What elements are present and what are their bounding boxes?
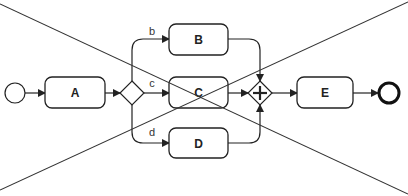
task-c[interactable]: C	[169, 77, 228, 108]
parallel-gateway[interactable]	[248, 81, 272, 105]
task-e[interactable]: E	[297, 77, 353, 108]
task-e-label: E	[321, 86, 329, 100]
end-event[interactable]	[379, 83, 399, 103]
start-event[interactable]	[5, 83, 25, 103]
task-d-label: D	[194, 137, 203, 151]
task-b[interactable]: B	[169, 24, 228, 55]
flow-label-b: b	[149, 25, 155, 37]
exclusive-gateway[interactable]	[120, 81, 144, 105]
flow-label-c: c	[149, 77, 155, 89]
task-d[interactable]: D	[169, 128, 228, 158]
flow-split-to-b[interactable]	[132, 39, 169, 81]
task-a-label: A	[71, 86, 80, 100]
flow-d-to-join[interactable]	[228, 105, 260, 143]
flow-b-to-join[interactable]	[228, 39, 260, 81]
flow-label-d: d	[149, 126, 155, 138]
task-b-label: B	[194, 33, 203, 47]
bpmn-diagram: A b c d B C D	[0, 0, 408, 196]
task-a[interactable]: A	[45, 77, 105, 108]
